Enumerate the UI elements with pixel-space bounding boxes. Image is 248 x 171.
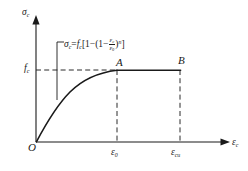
y-axis-label: σc (22, 8, 29, 18)
strain-ratio-fraction: εcε0 (109, 37, 115, 52)
figure-container: σc εc O fc ε0 εcu A B σc=fc[1−(1−εcε0)n] (0, 0, 248, 171)
x-axis-label: εc (232, 138, 238, 148)
point-label-b: B (178, 55, 185, 66)
origin-label: O (28, 142, 36, 153)
y-tick-label-fc: fc (24, 63, 30, 73)
point-label-a: A (116, 57, 123, 68)
y-axis (32, 15, 39, 142)
x-tick-label-eps0: ε0 (111, 148, 118, 158)
x-tick-label-epscu: εcu (171, 148, 180, 158)
x-axis (36, 138, 230, 145)
equation-annotation: σc=fc[1−(1−εcε0)n] (64, 37, 125, 52)
curve-ascending-branch (36, 70, 117, 142)
equation-leader-line (57, 42, 64, 100)
stress-strain-plot (0, 0, 248, 171)
